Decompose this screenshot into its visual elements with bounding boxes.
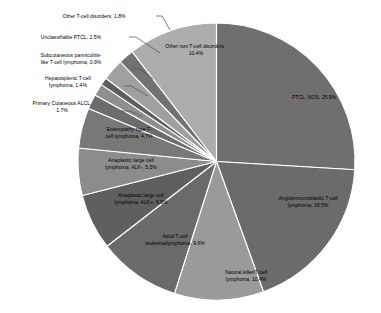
pie-label-other-t-cell-disorders: Other T-cell disorders, 1.8% — [62, 13, 126, 19]
pie-label-hepatosplenic-t-cell-lymphoma: Hepatosplenic T-celllymphoma, 1.4% — [45, 75, 91, 88]
pie-chart-figure: PTCL, NOS, 25.9%Angioimmunoblastic T-cel… — [0, 0, 381, 313]
pie-label-ptcl-nos: PTCL, NOS, 25.9% — [292, 94, 337, 100]
pie-label-primary-cutaneous-alcl: Primary Cutaneous ALCL,1.7% — [33, 100, 92, 113]
pie-label-anaplastic-large-cell-lymphoma-alk: Anaplastic large celllymphoma, ALK+, 6.5… — [114, 192, 168, 205]
pie-label-enteropathy-type-t-cell-lymphoma: Enteropathy-type T-cell lymphoma, 4.7% — [106, 126, 153, 139]
pie-label-subcutaneous-panniculitis-like-t-cell-lymphoma: Subcutaneous panniculitis-like T-cell ly… — [41, 52, 102, 65]
pie-chart-svg: PTCL, NOS, 25.9%Angioimmunoblastic T-cel… — [0, 0, 381, 313]
pie-label-natural-killer-t-cell-lymphoma: Natural killer/T-celllymphoma, 10.4% — [225, 269, 267, 282]
leader-line-other-tcell-disorders — [156, 16, 170, 30]
pie-label-anaplastic-large-cell-lymphoma-alk: Anaplastic large celllymphoma, ALK-, 5.5… — [105, 157, 157, 170]
pie-label-unclassifiable-ptcl: Unclassifiable PTCL, 2.5% — [41, 34, 102, 40]
